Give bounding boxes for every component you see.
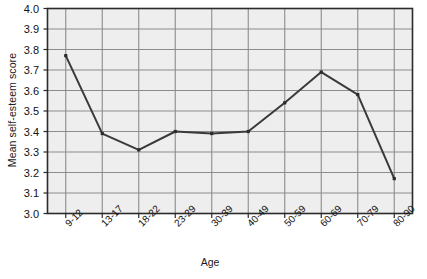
x-tick-label: 23-29: [172, 202, 198, 228]
x-axis-title: Age: [150, 256, 270, 268]
x-tick-label: 60-69: [318, 202, 344, 228]
x-tick-label: 70-79: [355, 202, 381, 228]
x-tick-label: 40-49: [245, 202, 271, 228]
self-esteem-by-age-line-chart: Mean self-esteem score 4.03.93.83.73.63.…: [0, 0, 427, 279]
x-tick-label: 30-39: [209, 202, 235, 228]
x-tick-label: 80-90: [391, 202, 417, 228]
x-tick-label: 9-12: [63, 206, 85, 228]
x-tick-label: 13-17: [99, 202, 125, 228]
x-tick-label: 18-22: [136, 202, 162, 228]
x-axis-tick-labels: 9-1213-1718-2223-2930-3940-4950-5960-697…: [0, 0, 427, 279]
x-tick-label: 50-59: [282, 202, 308, 228]
